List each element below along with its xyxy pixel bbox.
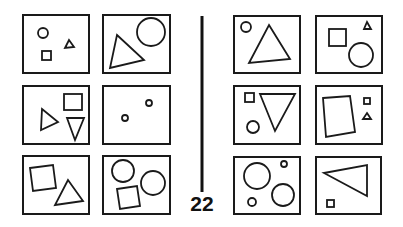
square-shape xyxy=(117,186,140,209)
square-shape xyxy=(245,93,254,102)
square-shape xyxy=(364,98,370,104)
circle-shape xyxy=(146,100,152,106)
left-panel-1 xyxy=(23,15,89,73)
quadrilateral-shape xyxy=(323,96,355,137)
square-shape xyxy=(42,51,51,60)
inverted-triangle-shape xyxy=(260,94,295,131)
problem-number: 22 xyxy=(186,193,218,215)
circle-shape xyxy=(281,161,287,167)
triangle-shape xyxy=(249,25,290,63)
right-panel-2 xyxy=(316,16,382,73)
left-panel-2 xyxy=(103,15,170,73)
square-shape xyxy=(329,29,346,46)
left-panel-3 xyxy=(23,86,89,144)
right-panel-4 xyxy=(316,86,382,144)
triangle-shape xyxy=(65,40,74,48)
circle-shape xyxy=(141,171,165,195)
circle-shape xyxy=(349,43,373,67)
circle-shape xyxy=(241,22,251,32)
left-panel-5 xyxy=(23,156,89,214)
inverted-triangle-shape xyxy=(67,118,84,140)
right-panel-3 xyxy=(234,86,300,144)
circle-shape xyxy=(122,115,128,121)
triangle-shape xyxy=(41,109,58,130)
right-panel-5 xyxy=(234,157,300,214)
circle-shape xyxy=(248,198,256,206)
circle-shape xyxy=(272,184,294,206)
left-panel-6 xyxy=(103,156,170,214)
triangle-shape xyxy=(324,165,367,196)
square-shape xyxy=(327,200,334,207)
circle-shape xyxy=(137,18,165,46)
right-panel-1 xyxy=(234,16,300,73)
square-shape xyxy=(64,94,82,110)
circle-shape xyxy=(244,163,270,189)
triangle-shape xyxy=(55,180,83,205)
triangle-shape xyxy=(364,22,371,29)
right-panel-6 xyxy=(316,157,381,214)
circle-shape xyxy=(38,28,48,38)
circle-shape xyxy=(247,121,259,133)
left-panel-4 xyxy=(103,86,170,144)
triangle-shape xyxy=(363,113,371,119)
square-shape xyxy=(30,165,56,191)
circle-shape xyxy=(112,160,134,182)
